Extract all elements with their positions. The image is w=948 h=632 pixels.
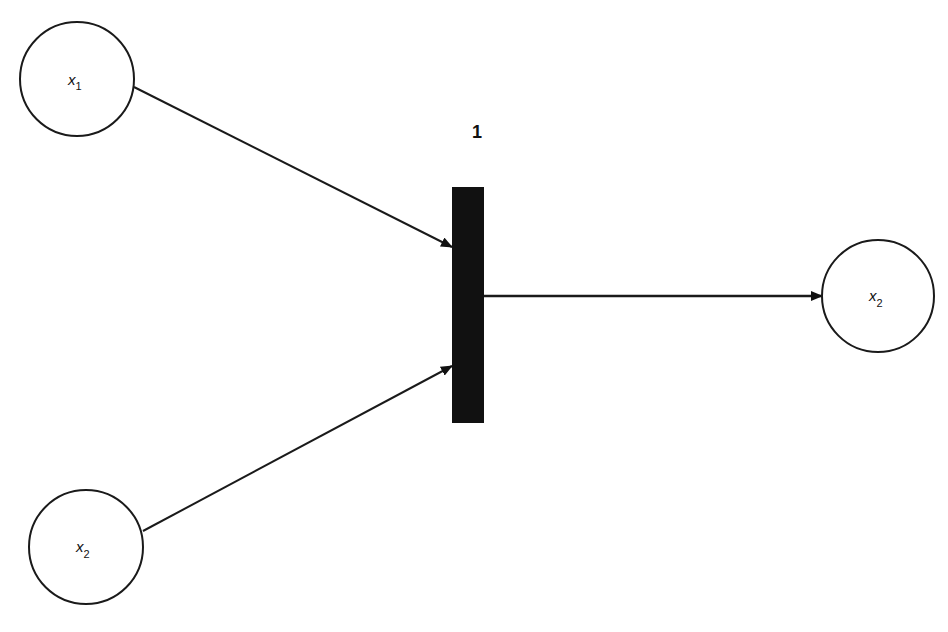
diagram-svg: x1 x2 x2 1 xyxy=(0,0,948,632)
arc-x2-to-transition xyxy=(143,366,452,531)
place-x2-output-sub: 2 xyxy=(877,297,883,309)
transition-1: 1 xyxy=(452,122,484,423)
transition-label: 1 xyxy=(472,122,482,142)
petri-net-diagram: x1 x2 x2 1 xyxy=(0,0,948,632)
place-x2-input-sub: 2 xyxy=(84,548,90,560)
place-x1: x1 xyxy=(20,22,134,136)
arc-x1-to-transition xyxy=(134,87,452,247)
place-x2-input: x2 xyxy=(29,490,143,604)
place-x2-output: x2 xyxy=(822,240,934,352)
place-x1-sub: 1 xyxy=(76,80,82,92)
